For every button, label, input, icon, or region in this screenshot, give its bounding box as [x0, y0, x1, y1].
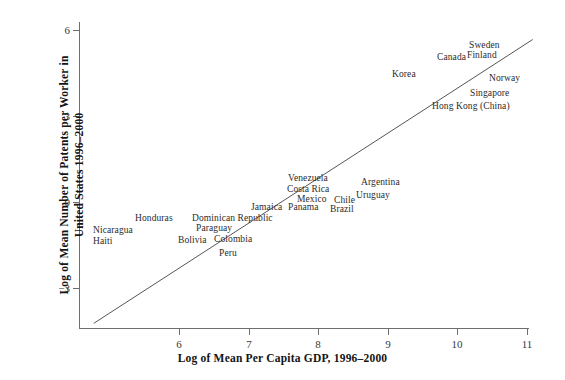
point-label-brazil: Brazil	[330, 204, 354, 214]
point-label-haiti: Haiti	[93, 236, 113, 246]
point-label-finland: Finland	[467, 50, 497, 60]
x-tick-mark-10	[457, 329, 458, 335]
point-label-bolivia: Bolivia	[178, 235, 207, 245]
point-label-korea: Korea	[392, 69, 416, 79]
x-axis-line	[79, 328, 529, 329]
point-label-jamaica: Jamaica	[251, 202, 282, 212]
x-tick-label-6: 6	[167, 339, 191, 350]
point-label-mexico: Mexico	[297, 194, 327, 204]
point-label-uruguay: Uruguay	[356, 190, 390, 200]
x-tick-mark-6	[179, 329, 180, 335]
point-label-chile: Chile	[334, 195, 355, 205]
point-label-honduras: Honduras	[135, 213, 173, 223]
x-tick-label-10: 10	[445, 339, 469, 350]
point-label-norway: Norway	[489, 73, 520, 83]
x-tick-label-9: 9	[376, 339, 400, 350]
x-tick-label-7: 7	[237, 339, 261, 350]
point-label-argentina: Argentina	[361, 177, 400, 187]
point-label-canada: Canada	[437, 52, 466, 62]
point-label-singapore: Singapore	[470, 88, 509, 98]
point-label-costa-rica: Costa Rica	[287, 184, 329, 194]
point-label-dominican-republic: Dominican Republic	[192, 213, 273, 223]
y-axis-title-line2: United States 1996–2000	[72, 25, 87, 325]
point-label-hong-kong-china: Hong Kong (China)	[432, 101, 510, 111]
point-label-peru: Peru	[219, 248, 237, 258]
point-label-paraguay: Paraguay	[196, 223, 232, 233]
x-tick-mark-7	[249, 329, 250, 335]
point-label-colombia: Colombia	[214, 234, 252, 244]
x-tick-mark-11	[527, 329, 528, 335]
point-label-venezuela: Venezuela	[288, 173, 328, 183]
x-tick-label-11: 11	[515, 339, 539, 350]
x-tick-mark-8	[318, 329, 319, 335]
y-axis-title-line1: Log of Mean Number of Patents per Worker…	[57, 25, 72, 325]
x-tick-mark-9	[388, 329, 389, 335]
point-label-sweden: Sweden	[469, 40, 500, 50]
point-label-nicaragua: Nicaragua	[93, 225, 133, 235]
x-axis-title: Log of Mean Per Capita GDP, 1996–2000	[0, 352, 565, 364]
y-axis-title: Log of Mean Number of Patents per Worker…	[57, 25, 87, 325]
scatter-plot-figure: 6 3 0 −3 6 7 8 9 10 11 Log of Mean Per C…	[0, 0, 565, 380]
x-tick-label-8: 8	[306, 339, 330, 350]
